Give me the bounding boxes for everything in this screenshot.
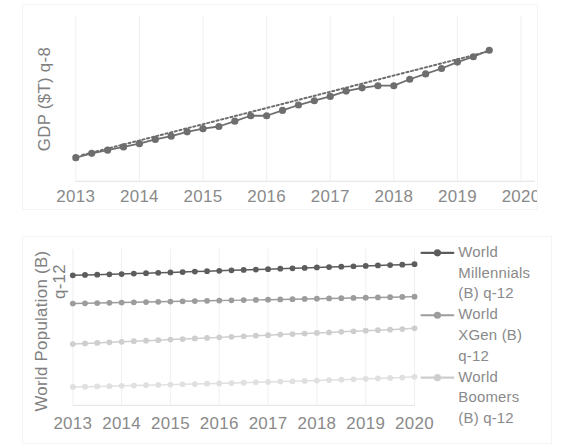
legend-label-line3: (B) q-12 [458,285,513,301]
population-data-point [94,300,100,306]
population-data-point [94,340,100,346]
population-data-point [155,299,161,305]
y-axis-label: World Population (B) [32,251,51,412]
population-data-point [131,299,137,305]
population-data-point [338,329,344,335]
population-data-point [277,266,283,272]
gdp-data-point [422,70,429,77]
population-data-point [204,268,210,274]
population-data-point [94,272,100,278]
legend-marker-icon [434,312,441,319]
population-data-point [216,381,222,387]
population-data-point [387,262,393,268]
population-data-point [70,272,76,278]
population-data-point [82,384,88,390]
y-axis-label-line1: World Population (B) [32,251,51,412]
gdp-data-point [327,93,334,100]
gdp-data-point [279,107,286,114]
population-data-point [155,337,161,343]
population-data-point [351,263,357,269]
gdp-data-point [215,123,222,130]
population-data-point [168,299,174,305]
population-data-point [302,331,308,337]
population-data-point [326,296,332,302]
population-data-point [192,269,198,275]
population-data-point [265,379,271,385]
population-data-point [192,381,198,387]
population-data-point [155,382,161,388]
population-data-point [253,333,259,339]
population-data-point [192,298,198,304]
population-data-point [229,334,235,340]
x-tick-label: 2013 [56,187,95,206]
gdp-data-point [104,147,111,154]
x-tick-label: 2020 [395,414,434,433]
population-data-point [70,341,76,347]
population-data-point [412,374,418,380]
population-data-point [180,381,186,387]
population-data-point [399,326,405,332]
legend-label-line3: q-12 [458,348,489,364]
population-data-point [290,378,296,384]
gdp-data-point [72,154,79,161]
population-data-point [253,297,259,303]
population-data-point [326,264,332,270]
gdp-data-point [247,112,254,119]
legend-label-line2: XGen (B) [458,327,522,343]
population-data-point [290,265,296,271]
population-data-point [168,270,174,276]
population-data-point [277,332,283,338]
population-data-point [143,338,149,344]
population-data-point [107,339,113,345]
population-data-point [131,271,137,277]
gdp-data-point [120,143,127,150]
legend-label-line2: Millennials [458,265,530,281]
population-data-point [314,296,320,302]
population-data-point [131,338,137,344]
population-data-point [241,267,247,273]
population-data-point [338,377,344,383]
legend-label-line1: World [458,306,498,322]
population-data-point [204,335,210,341]
population-data-point [302,296,308,302]
x-tick-label: 2015 [184,187,223,206]
population-data-point [387,375,393,381]
gdp-data-point [168,133,175,140]
population-data-point [314,378,320,384]
population-data-point [143,382,149,388]
y-axis-label-secondary: q-12 [50,264,69,299]
x-tick-label: 2018 [374,187,413,206]
gdp-data-point [199,125,206,132]
population-data-point [143,270,149,276]
legend-item[interactable]: WorldBoomers(B) q-12 [421,369,519,427]
gdp-data-point [263,112,270,119]
population-data-point [229,297,235,303]
population-data-point [82,272,88,278]
population-data-point [265,266,271,272]
gdp-data-point [88,150,95,157]
x-tick-label: 2013 [53,414,92,433]
population-data-point [119,383,125,389]
population-data-point [314,265,320,271]
gdp-data-point [374,82,381,89]
population-data-point [204,381,210,387]
gdp-chart-panel: 20132014201520162017201820192020GDP ($T)… [22,4,538,210]
gdp-trendline [82,52,486,155]
population-data-point [351,376,357,382]
population-data-point [229,267,235,273]
population-data-point [290,331,296,337]
legend-marker-icon [434,374,441,381]
population-data-point [241,380,247,386]
population-data-point [216,268,222,274]
legend-label-line2: Boomers [458,389,519,405]
population-data-point [277,297,283,303]
population-data-point [94,384,100,390]
legend-item[interactable]: WorldMillennials(B) q-12 [421,244,530,302]
x-tick-label: 2019 [438,187,477,206]
population-data-point [412,325,418,331]
population-data-point [290,296,296,302]
population-data-point [155,270,161,276]
gdp-data-point [486,47,493,54]
population-data-point [326,377,332,383]
legend-item[interactable]: WorldXGen (B)q-12 [421,306,522,364]
